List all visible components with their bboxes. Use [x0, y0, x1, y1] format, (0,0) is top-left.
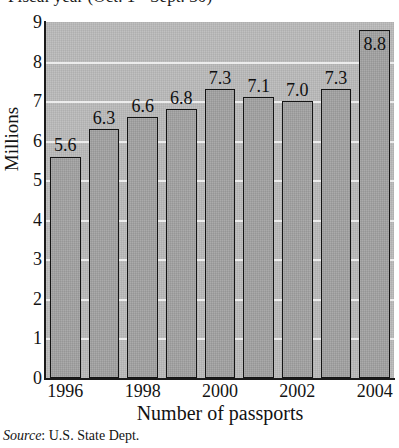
x-tick-label: 1996: [35, 382, 95, 400]
bar-value-label: 5.6: [44, 136, 87, 154]
y-tick-label: 7: [2, 92, 42, 110]
x-tick-label: 2004: [345, 382, 399, 400]
bar-value-label: 7.3: [315, 69, 358, 87]
bar-value-label: 7.0: [276, 81, 319, 99]
y-axis-line: [44, 21, 46, 379]
bar-value-label: 6.8: [160, 89, 203, 107]
x-axis-line: [44, 378, 395, 380]
bar: [166, 109, 197, 378]
bar: [50, 157, 81, 379]
chart-figure: Fiscal year (Oct. 1 - Sept. 30) Millions…: [0, 0, 399, 448]
y-tick-label: 1: [2, 329, 42, 347]
x-axis-title: Number of passports: [46, 402, 394, 425]
y-tick-label: 9: [2, 13, 42, 31]
x-tick-label: 1998: [113, 382, 173, 400]
y-tick-label: 8: [2, 53, 42, 71]
y-tick-label: 3: [2, 250, 42, 268]
source-note: Source: U.S. State Dept.: [3, 428, 139, 444]
bar-value-label: 6.3: [83, 109, 126, 127]
bar: [359, 30, 390, 378]
source-separator: :: [41, 428, 48, 443]
x-tick-label: 2002: [267, 382, 327, 400]
bar: [282, 101, 313, 378]
bar: [205, 89, 236, 378]
bar-value-label: 7.1: [237, 77, 280, 95]
bar: [127, 117, 158, 378]
x-tick-label: 2000: [190, 382, 250, 400]
y-tick-label: 4: [2, 211, 42, 229]
bar: [89, 129, 120, 378]
y-axis-tick-labels: 9876543210: [0, 0, 42, 448]
bar: [321, 89, 352, 378]
bar-value-label: 6.6: [121, 97, 164, 115]
bar-value-label: 8.8: [353, 35, 396, 53]
y-tick-label: 2: [2, 290, 42, 308]
bar-value-label: 7.3: [199, 69, 242, 87]
source-label: Source: [3, 428, 41, 443]
gridline: [46, 62, 394, 64]
source-value: U.S. State Dept.: [49, 428, 140, 443]
bar: [243, 97, 274, 378]
y-tick-label: 6: [2, 132, 42, 150]
y-tick-label: 5: [2, 171, 42, 189]
